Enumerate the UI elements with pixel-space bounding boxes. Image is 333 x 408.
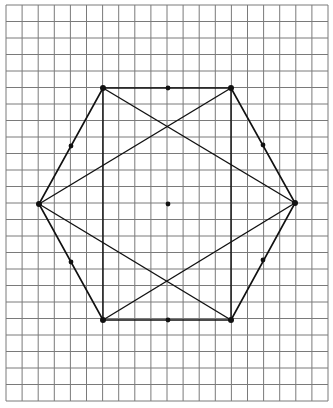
vertex-dot [292,200,298,206]
midpoint-dot [166,202,171,207]
vertex-dot [100,85,106,91]
diagram-svg [0,0,333,408]
vertex-dot [100,317,106,323]
vertex-dot [228,85,234,91]
midpoint-dot [69,144,74,149]
midpoint-dot [166,318,171,323]
vertex-dot [228,317,234,323]
midpoint-dot [261,258,266,263]
hexagon-grid-diagram [0,0,333,408]
midpoint-dot [166,86,171,91]
midpoint-dot [261,143,266,148]
midpoint-dot [69,260,74,265]
vertex-dot [36,201,42,207]
